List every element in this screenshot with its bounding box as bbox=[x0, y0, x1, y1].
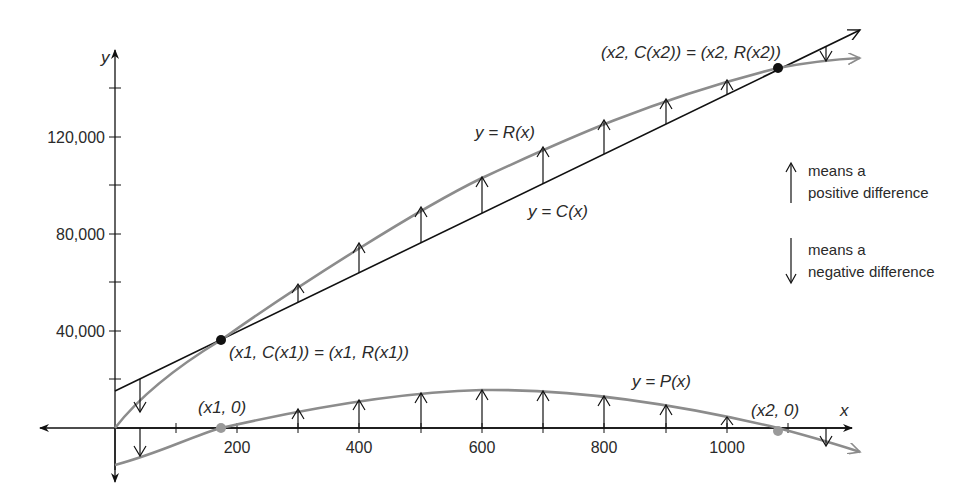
revenue-curve bbox=[115, 58, 860, 428]
legend-up-arrow-icon bbox=[786, 163, 796, 203]
x-tick-label-600: 600 bbox=[469, 439, 496, 456]
y-tick-label-80000: 80,000 bbox=[56, 226, 105, 243]
break-even-label-1: (x1, C(x1)) = (x1, R(x1)) bbox=[229, 343, 409, 362]
profit-zero-label-2: (x2, 0) bbox=[751, 401, 799, 420]
legend-negative-line2: negative difference bbox=[808, 263, 934, 280]
chart-canvas: 120,000 80,000 40,000 200 400 600 800 10… bbox=[0, 0, 972, 502]
x-tick-label-400: 400 bbox=[346, 439, 373, 456]
profit-cost-revenue-figure: 120,000 80,000 40,000 200 400 600 800 10… bbox=[0, 0, 972, 502]
profit-zero-label-1: (x1, 0) bbox=[198, 398, 246, 417]
x-tick-label-1000: 1000 bbox=[709, 439, 745, 456]
break-even-point-1 bbox=[216, 335, 226, 345]
legend: means a positive difference means a nega… bbox=[786, 162, 934, 283]
y-tick-label-120000: 120,000 bbox=[47, 129, 105, 146]
cost-label: y = C(x) bbox=[527, 202, 588, 221]
legend-negative-line1: means a bbox=[808, 241, 866, 258]
legend-positive-line1: means a bbox=[808, 162, 866, 179]
x-tick-label-200: 200 bbox=[224, 439, 251, 456]
x-tick-label-800: 800 bbox=[591, 439, 618, 456]
break-even-label-2: (x2, C(x2)) = (x2, R(x2)) bbox=[601, 43, 781, 62]
x-axis-label: x bbox=[839, 401, 849, 420]
revenue-label: y = R(x) bbox=[474, 123, 535, 142]
break-even-point-2 bbox=[773, 63, 783, 73]
y-tick-label-40000: 40,000 bbox=[56, 323, 105, 340]
profit-label: y = P(x) bbox=[631, 372, 691, 391]
profit-zero-point-1 bbox=[216, 423, 226, 433]
legend-down-arrow-icon bbox=[786, 238, 796, 283]
y-axis-label: y bbox=[100, 48, 111, 67]
legend-positive-line2: positive difference bbox=[808, 184, 929, 201]
profit-zero-point-2 bbox=[773, 426, 783, 436]
